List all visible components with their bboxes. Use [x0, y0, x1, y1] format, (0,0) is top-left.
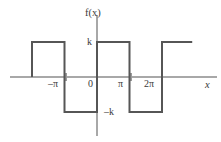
x-tick-label-zero: 0	[88, 79, 93, 89]
x-tick-label-pi: π	[118, 79, 123, 89]
x-tick-label-neg-pi: –π	[48, 79, 58, 89]
y-tick-label-k: k	[87, 37, 92, 47]
plot-canvas	[0, 0, 221, 142]
y-axis-label: f(x)	[85, 8, 101, 19]
square-wave-figure: f(x) x k –k –π 0 π 2π	[0, 0, 221, 142]
x-tick-label-two-pi: 2π	[144, 79, 154, 89]
y-tick-label-neg-k: –k	[104, 107, 114, 117]
x-axis-label: x	[205, 80, 210, 91]
